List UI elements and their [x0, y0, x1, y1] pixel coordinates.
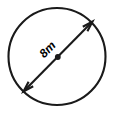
- center-point-dot: [55, 54, 61, 60]
- circle-diameter-figure: 8m: [0, 0, 116, 113]
- figure-canvas: 8m: [0, 0, 116, 113]
